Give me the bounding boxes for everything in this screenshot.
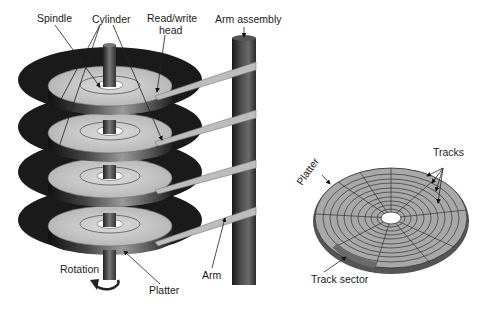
cylinder-label: Cylinder bbox=[92, 13, 131, 25]
spindle-label: Spindle bbox=[37, 12, 72, 24]
center-hole bbox=[381, 212, 401, 224]
read-write-head-label-line1: Read/write bbox=[147, 12, 197, 24]
hard-disk-diagram: Spindle Cylinder Read/write head Arm ass… bbox=[0, 0, 486, 309]
arm-label: Arm bbox=[202, 269, 222, 281]
read-write-head-label-line2: head bbox=[159, 24, 183, 36]
rotation-arrow-icon bbox=[90, 279, 118, 290]
platter-label: Platter bbox=[149, 284, 180, 296]
rotation-label: Rotation bbox=[60, 263, 99, 275]
platter-top-view bbox=[313, 168, 469, 274]
right-platter-label: Platter bbox=[294, 155, 322, 187]
track-sector-label: Track sector bbox=[311, 273, 369, 285]
arm-assembly-label: Arm assembly bbox=[215, 13, 282, 25]
tracks-label: Tracks bbox=[433, 146, 464, 158]
